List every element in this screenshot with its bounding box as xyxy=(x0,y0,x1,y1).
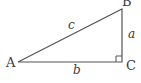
side-label-a: a xyxy=(128,27,135,41)
right-triangle-diagram: B A C c a b xyxy=(0,0,141,83)
right-angle-marker xyxy=(116,56,122,62)
vertex-label-b: B xyxy=(122,0,132,9)
triangle-shape xyxy=(18,9,122,62)
vertex-label-c: C xyxy=(126,58,136,73)
vertex-label-a: A xyxy=(5,55,16,70)
side-label-b: b xyxy=(73,63,81,77)
side-label-c: c xyxy=(68,18,75,32)
